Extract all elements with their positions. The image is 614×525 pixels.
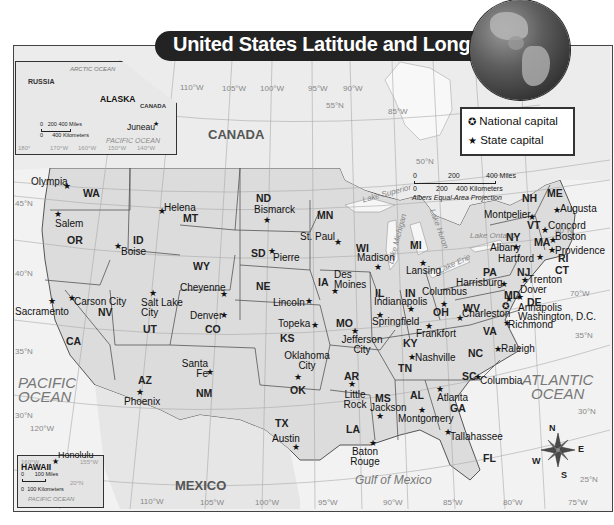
state-capital-icon: ★ (348, 380, 356, 389)
globe-south-america (522, 46, 550, 86)
state-me: ME (547, 188, 563, 199)
state-capital-icon: ★ (263, 216, 271, 225)
state-capital-icon: ★ (536, 253, 544, 262)
state-capital-icon: ★ (311, 321, 319, 330)
state-nh: NH (522, 193, 537, 204)
legend-state-capital: ★ State capital (468, 134, 544, 146)
globe-north-america (490, 12, 528, 40)
salt-lake-city-label: Salt Lake City (141, 298, 191, 318)
state-ks: KS (280, 333, 295, 344)
compass-w: W (532, 456, 541, 466)
state-az: AZ (138, 375, 152, 386)
state-ia: IA (318, 277, 329, 288)
state-al: AL (410, 390, 424, 401)
state-mi: MI (410, 240, 422, 251)
state-co: CO (205, 324, 221, 335)
state-mt: MT (183, 213, 198, 224)
compass-e: E (578, 444, 584, 454)
gulf-of-mexico-label: Gulf of Mexico (355, 475, 432, 486)
state-fl: FL (483, 453, 496, 464)
state-mn: MN (317, 210, 333, 221)
state-capital-icon: ★ (374, 263, 382, 272)
hawaii-scale-line (22, 479, 46, 482)
legend-national-capital: ✪ National capital (468, 115, 558, 127)
state-ne: NE (256, 281, 271, 292)
state-capital-icon: ★ (292, 443, 300, 452)
state-ny: NY (506, 232, 521, 243)
state-tx: TX (275, 418, 288, 429)
state-va: VA (483, 326, 497, 337)
state-ut: UT (143, 324, 157, 335)
state-nv: NV (98, 307, 113, 318)
state-capital-icon: ★ (305, 297, 313, 306)
state-nc: NC (468, 348, 483, 359)
globe-icon (470, 0, 570, 100)
compass-s: S (561, 470, 567, 480)
state-ga: GA (450, 403, 466, 414)
state-sd: SD (251, 248, 266, 259)
state-ok: OK (290, 385, 306, 396)
state-capital-icon: ★ (48, 297, 56, 306)
state-nm: NM (196, 388, 212, 399)
page-title: United States Latitude and Longitude (173, 33, 517, 56)
state-capital-icon: ★ (153, 120, 159, 127)
projection-label: Albers Equal-Area Projection (412, 194, 502, 201)
globe-central-america (508, 36, 524, 50)
pacific-ocean-label: PACIFICOCEAN (18, 376, 76, 405)
washington-dc-label: Washington, D.C. (518, 312, 596, 322)
map-legend: ✪ National capital ★ State capital (460, 107, 575, 156)
country-mexico: MEXICO (175, 479, 226, 492)
state-la: LA (346, 424, 360, 435)
state-tn: TN (398, 363, 412, 374)
national-capital-icon: ✪ (502, 302, 510, 311)
atlantic-ocean-label: ATLANTICOCEAN (522, 373, 593, 402)
country-canada: CANADA (208, 128, 264, 141)
state-ca: CA (66, 336, 81, 347)
scale-line (414, 181, 496, 184)
state-capital-icon: ★ (440, 300, 448, 309)
compass-icon (538, 430, 578, 470)
state-capital-icon: ★ (468, 135, 477, 146)
state-capital-icon: ★ (294, 373, 302, 382)
state-or: OR (67, 235, 83, 246)
national-capital-icon: ✪ (468, 116, 476, 127)
state-ky: KY (403, 338, 418, 349)
state-capital-icon: ★ (52, 458, 59, 466)
state-wy: WY (193, 261, 210, 272)
state-wa: WA (83, 188, 100, 199)
state-id: ID (133, 235, 144, 246)
compass-n: N (549, 423, 556, 433)
state-nd: ND (256, 193, 271, 204)
state-capital-icon: ★ (334, 238, 342, 247)
state-capital-icon: ★ (376, 412, 384, 421)
state-pa: PA (483, 267, 497, 278)
